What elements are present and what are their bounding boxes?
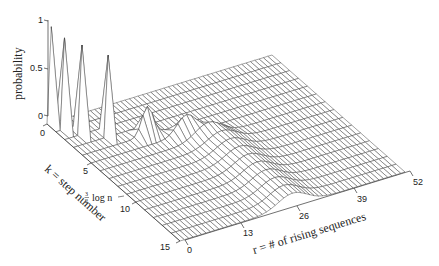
z-axis-label: probability [11,47,25,100]
mesh-cell [47,27,60,132]
svg-text:log n: log n [92,192,112,203]
r-tick-0: 0 [187,245,192,255]
z-tick-0.5: 0.5 [30,63,43,73]
svg-text:2: 2 [85,198,88,204]
r-axis-label: r = # of rising sequences [251,209,368,257]
surface-plot: 1 0.5 0 probability 0 5 10 15 k = step n… [0,0,439,266]
mesh-cell [104,55,117,146]
k-tick-10: 10 [120,204,130,214]
k-tick-15: 15 [160,242,170,252]
r-tick-52: 52 [413,177,423,187]
mesh-cell [78,45,91,143]
mesh-cell [60,38,73,138]
z-tick-1: 1 [38,15,43,25]
k-tick-5: 5 [83,166,88,176]
svg-text:3: 3 [85,191,88,197]
k-tick-0: 0 [40,128,45,138]
z-tick-0: 0 [38,111,43,121]
r-tick-26: 26 [299,211,309,221]
r-tick-39: 39 [357,194,367,204]
r-tick-13: 13 [243,228,253,238]
z-axis [44,20,48,116]
